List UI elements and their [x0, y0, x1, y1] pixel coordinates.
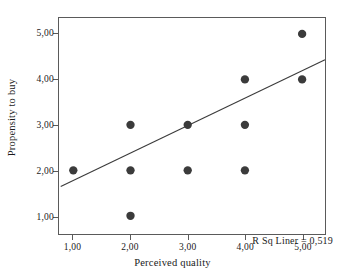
x-tick-mark [245, 235, 246, 240]
regression-line [61, 60, 325, 187]
x-tick-mark [188, 235, 189, 240]
y-axis-title: Propensity to buy [7, 79, 18, 157]
x-tick-label: 1,00 [64, 242, 81, 252]
y-tick-label: 2,00 [37, 166, 54, 176]
y-tick-label: 3,00 [37, 120, 54, 130]
x-tick-label: 3,00 [179, 242, 196, 252]
data-point [184, 166, 192, 174]
data-point [126, 212, 134, 220]
plot-canvas [59, 18, 325, 234]
data-point [69, 166, 77, 174]
y-tick-label: 4,00 [37, 74, 54, 84]
y-tick-label: 1,00 [37, 212, 54, 222]
data-point [298, 75, 306, 83]
x-tick-mark [130, 235, 131, 240]
scatter-plot-figure: Propensity to buy 1,002,003,004,005,00 1… [0, 0, 345, 278]
r-squared-annotation: R Sq Liner = 0,519 [252, 235, 333, 246]
x-tick-mark [72, 235, 73, 240]
plot-area [58, 17, 326, 235]
data-point [241, 166, 249, 174]
y-tick-label: 5,00 [37, 28, 54, 38]
data-points [69, 30, 306, 220]
data-point [298, 30, 306, 38]
x-tick-label: 2,00 [121, 242, 138, 252]
data-point [126, 121, 134, 129]
y-axis-title-container: Propensity to buy [0, 0, 24, 235]
data-point [241, 121, 249, 129]
x-axis-title: Perceived quality [0, 257, 345, 268]
data-point [126, 166, 134, 174]
data-point [184, 121, 192, 129]
data-point [241, 75, 249, 83]
